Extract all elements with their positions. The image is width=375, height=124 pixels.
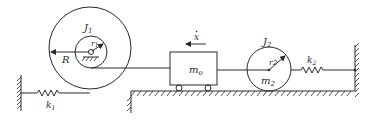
ground-floor <box>127 91 355 113</box>
label-j2: J2 <box>261 36 272 49</box>
label-k2: k2 <box>307 55 316 66</box>
label-m2: m2 <box>261 75 275 88</box>
label-m0: mo <box>189 64 203 77</box>
mechanical-system-diagram: J1 r1 R k1 x mo J2 r2 m2 k2 <box>0 0 375 124</box>
label-r1: r1 <box>91 39 99 48</box>
label-j1: J1 <box>82 22 92 35</box>
xdot-dot <box>196 31 198 33</box>
spring-k1 <box>21 90 90 96</box>
pulley-j1 <box>49 7 131 89</box>
label-R: R <box>61 54 70 65</box>
label-k1: k1 <box>46 100 55 111</box>
spring-k2 <box>291 67 355 73</box>
label-xdot: x <box>194 32 199 42</box>
left-wall <box>17 75 21 111</box>
label-r2: r2 <box>269 58 278 67</box>
